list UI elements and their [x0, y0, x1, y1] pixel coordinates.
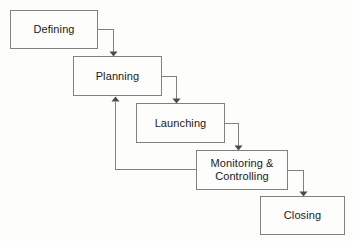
connector-monitoring-to-closing [288, 170, 308, 197]
connector-line [225, 123, 239, 146]
node-launching[interactable]: Launching [136, 103, 225, 143]
node-monitoring-controlling[interactable]: Monitoring & Controlling [196, 150, 288, 190]
node-closing[interactable]: Closing [260, 196, 345, 235]
node-closing-label: Closing [281, 209, 324, 222]
node-monitoring-controlling-label: Monitoring & Controlling [208, 157, 277, 184]
flow-diagram-canvas: Defining Planning Launching Monitoring &… [0, 0, 353, 241]
arrowhead-up-icon [112, 97, 120, 102]
node-planning-label: Planning [93, 70, 143, 83]
connector-planning-to-launching [162, 76, 181, 104]
connector-line [288, 170, 304, 192]
node-defining-label: Defining [30, 23, 77, 36]
node-planning[interactable]: Planning [73, 56, 162, 96]
connector-line [162, 76, 177, 99]
connector-line [98, 30, 114, 52]
connector-defining-to-planning [98, 30, 118, 57]
connector-launching-to-monitoring [225, 123, 243, 151]
node-defining[interactable]: Defining [10, 10, 98, 49]
node-launching-label: Launching [152, 117, 210, 130]
